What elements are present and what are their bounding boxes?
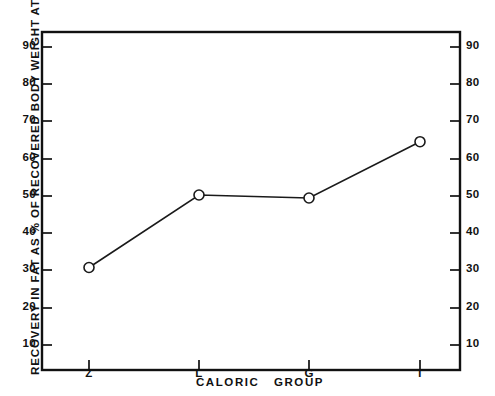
data-point-z[interactable] [84, 263, 94, 273]
x-tick-label-t: T [405, 367, 435, 379]
y-tick-label-right-50: 50 [466, 188, 492, 200]
x-tick-label-z: Z [74, 367, 104, 379]
y-tick-label-right-20: 20 [466, 300, 492, 312]
y-tick-label-left-20: 20 [10, 300, 36, 312]
y-tick-label-right-60: 60 [466, 151, 492, 163]
y-tick-label-left-30: 30 [10, 262, 36, 274]
y-tick-label-left-70: 70 [10, 113, 36, 125]
data-point-g[interactable] [304, 193, 314, 203]
plot-frame [42, 32, 460, 370]
y-tick-label-left-50: 50 [10, 188, 36, 200]
y-tick-label-right-40: 40 [466, 225, 492, 237]
y-tick-label-left-80: 80 [10, 76, 36, 88]
chart-figure: RECOVERY IN FAT AS % OF RECOVERED BODY W… [0, 0, 495, 396]
data-point-t[interactable] [415, 137, 425, 147]
plot-area [0, 0, 495, 396]
x-tick-label-l: L [184, 367, 214, 379]
y-tick-label-right-70: 70 [466, 113, 492, 125]
y-tick-label-left-40: 40 [10, 225, 36, 237]
x-tick-label-g: G [294, 367, 324, 379]
y-tick-label-right-90: 90 [466, 39, 492, 51]
data-point-l[interactable] [194, 190, 204, 200]
y-tick-label-left-10: 10 [10, 337, 36, 349]
y-tick-label-left-90: 90 [10, 39, 36, 51]
y-tick-label-right-10: 10 [466, 337, 492, 349]
y-tick-label-right-30: 30 [466, 262, 492, 274]
y-tick-label-right-80: 80 [466, 76, 492, 88]
y-tick-label-left-60: 60 [10, 151, 36, 163]
